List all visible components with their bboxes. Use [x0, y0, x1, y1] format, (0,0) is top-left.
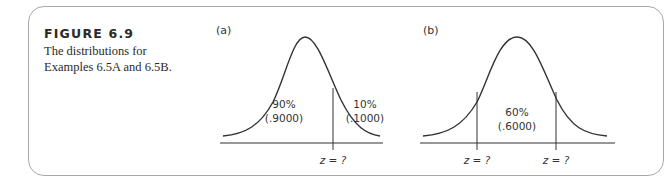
figure-title: FIGURE 6.9: [44, 26, 204, 41]
figure-description-line2: Examples 6.5A and 6.5B.: [44, 59, 204, 75]
figure-caption: FIGURE 6.9 The distributions for Example…: [44, 26, 204, 75]
z-right-label: z = ?: [542, 154, 570, 166]
panel-a-normal-curve: 90% (.9000) 10% (.1000) z = ?: [215, 30, 415, 175]
figure-description-line1: The distributions for: [44, 43, 204, 59]
region-90-prop: (.9000): [265, 112, 303, 124]
z-left-label: z = ?: [463, 154, 491, 166]
panel-b-normal-curve: 60% (.6000) z = ? z = ?: [415, 30, 615, 175]
region-90-pct: 90%: [272, 98, 295, 110]
z-label: z = ?: [319, 154, 347, 166]
region-60-pct: 60%: [505, 106, 528, 118]
region-10-pct: 10%: [353, 98, 376, 110]
region-10-prop: (.1000): [346, 112, 384, 124]
region-60-prop: (.6000): [498, 120, 536, 132]
